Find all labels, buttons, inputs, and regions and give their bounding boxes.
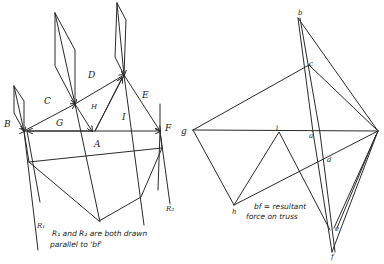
note-resultant-line2: force on truss xyxy=(246,212,298,221)
label-H: H xyxy=(90,103,98,111)
label-R2: R₂ xyxy=(165,205,174,213)
label-I: I xyxy=(121,112,126,122)
label-h: h xyxy=(232,208,237,216)
force-diagram: b c g i a d h e f bf = resultant force o… xyxy=(181,9,378,261)
label-e: e xyxy=(335,225,339,233)
label-E: E xyxy=(141,90,149,100)
label-D: D xyxy=(87,70,95,80)
label-G: G xyxy=(56,118,63,128)
label-i: i xyxy=(276,124,278,132)
note-reactions-line2: parallel to 'bf' xyxy=(49,240,102,249)
label-a: a xyxy=(309,132,313,140)
space-diagram: B C D E F G H I A R₁ R₂ R₁ and R₂ are bo… xyxy=(3,3,174,250)
note-resultant-line1: bf = resultant xyxy=(254,202,307,211)
label-F: F xyxy=(164,123,172,133)
label-C: C xyxy=(44,96,51,106)
label-d: d xyxy=(327,156,332,164)
label-c: c xyxy=(309,60,313,68)
truss-diagram: B C D E F G H I A R₁ R₂ R₁ and R₂ are bo… xyxy=(0,0,384,264)
label-f: f xyxy=(330,253,335,261)
label-R1: R₁ xyxy=(36,222,45,230)
label-b: b xyxy=(298,9,303,17)
label-B: B xyxy=(3,119,11,129)
note-reactions-line1: R₁ and R₂ are both drawn xyxy=(52,229,147,238)
label-A: A xyxy=(93,139,101,149)
label-g: g xyxy=(181,126,187,136)
